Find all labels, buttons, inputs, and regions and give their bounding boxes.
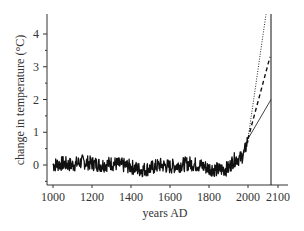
projection-mid-dashed-line xyxy=(248,57,270,139)
projection-low-solid-line xyxy=(248,100,271,139)
x-tick-label: 2000 xyxy=(236,190,260,204)
temperature-chart: 012341000120014001600180020002100 change… xyxy=(0,0,304,231)
x-tick-label: 1200 xyxy=(80,190,104,204)
y-axis-label: change in temperature (°C) xyxy=(13,35,27,165)
x-tick-label: 1400 xyxy=(119,190,143,204)
y-tick-label: 2 xyxy=(33,93,39,107)
y-tick-label: 1 xyxy=(33,125,39,139)
chart-svg: 012341000120014001600180020002100 change… xyxy=(0,0,304,231)
y-tick-label: 4 xyxy=(33,27,39,41)
x-tick-label: 1600 xyxy=(158,190,182,204)
x-axis-label: years AD xyxy=(143,206,188,220)
y-tick-label: 3 xyxy=(33,60,39,74)
x-tick-label: 2100 xyxy=(266,190,290,204)
x-tick-label: 1800 xyxy=(197,190,221,204)
axes: 012341000120014001600180020002100 xyxy=(33,14,290,204)
projection-high-dotted-line xyxy=(248,14,266,138)
series-layer xyxy=(53,14,271,185)
historical-temperature-line xyxy=(53,137,248,176)
y-tick-label: 0 xyxy=(33,158,39,172)
x-tick-label: 1000 xyxy=(41,190,65,204)
